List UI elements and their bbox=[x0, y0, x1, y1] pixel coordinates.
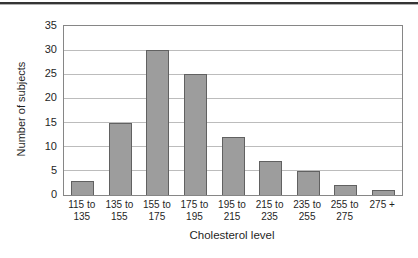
bar-275-+ bbox=[372, 190, 395, 195]
figure: Number of subjects 05101520253035 115 to… bbox=[0, 0, 418, 258]
figure-top-rule bbox=[0, 2, 418, 4]
gridline-y-25 bbox=[64, 74, 402, 75]
y-tick-label-15: 15 bbox=[25, 116, 57, 128]
y-tick-label-10: 10 bbox=[25, 140, 57, 152]
bar-155-to-175 bbox=[146, 50, 169, 195]
y-tick-label-5: 5 bbox=[25, 164, 57, 176]
y-tick-label-35: 35 bbox=[25, 19, 57, 31]
gridline-y-20 bbox=[64, 98, 402, 99]
gridline-y-30 bbox=[64, 50, 402, 51]
plot-area bbox=[63, 25, 403, 196]
x-axis-title: Cholesterol level bbox=[63, 229, 401, 241]
bar-195-to-215 bbox=[222, 137, 245, 195]
x-tick-label: 275 + bbox=[360, 199, 404, 211]
bar-235-to-255 bbox=[297, 171, 320, 195]
bar-215-to-235 bbox=[259, 161, 282, 195]
y-tick-label-25: 25 bbox=[25, 67, 57, 79]
bar-135-to-155 bbox=[109, 123, 132, 195]
y-tick-label-0: 0 bbox=[25, 188, 57, 200]
bar-115-to-135 bbox=[71, 181, 94, 195]
bar-175-to-195 bbox=[184, 74, 207, 195]
y-tick-label-20: 20 bbox=[25, 91, 57, 103]
y-tick-label-30: 30 bbox=[25, 43, 57, 55]
bar-255-to-275 bbox=[334, 185, 357, 195]
